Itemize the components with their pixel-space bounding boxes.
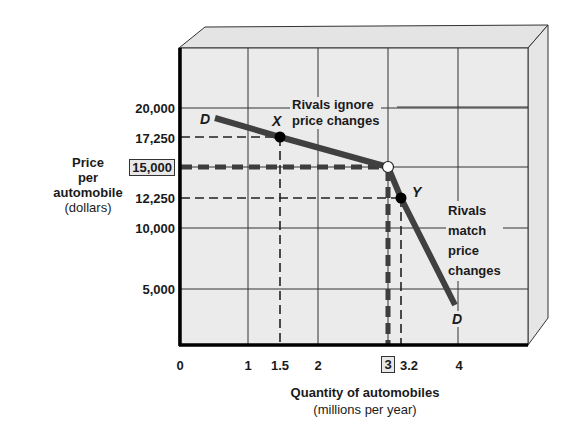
point-x-marker bbox=[275, 132, 286, 143]
y-tick-20000: 20,000 bbox=[105, 101, 175, 116]
y-title-line-2: per bbox=[48, 170, 128, 185]
annotation-match-line-2: match bbox=[448, 221, 501, 241]
annotation-match-line-3: price bbox=[448, 241, 501, 261]
x-axis-title: Quantity of automobiles (millions per ye… bbox=[250, 384, 480, 418]
y-axis-title: Price per automobile (dollars) bbox=[48, 155, 128, 215]
demand-label-start: D bbox=[200, 111, 210, 127]
x-tick-3-2: 3.2 bbox=[394, 358, 424, 373]
x-tick-1-5: 1.5 bbox=[265, 358, 295, 373]
y-title-line-1: Price bbox=[48, 155, 128, 170]
y-tick-15000-label: 15,000 bbox=[129, 159, 175, 176]
y-title-unit: (dollars) bbox=[65, 200, 112, 215]
annotation-ignore-line-2: price changes bbox=[292, 113, 379, 129]
y-title-line-3: automobile bbox=[48, 185, 128, 200]
x-title-main: Quantity of automobiles bbox=[250, 384, 480, 401]
x-tick-3-label: 3 bbox=[381, 356, 394, 373]
y-tick-5000: 5,000 bbox=[105, 282, 175, 297]
box-top bbox=[179, 25, 548, 48]
annotation-ignore-line-1: Rivals ignore bbox=[292, 97, 379, 113]
annotation-match-line-4: changes bbox=[448, 261, 501, 281]
point-x-label: X bbox=[272, 113, 281, 129]
point-y-marker bbox=[396, 193, 407, 204]
x-tick-0: 0 bbox=[165, 358, 195, 373]
box-side bbox=[528, 25, 548, 345]
annotation-rivals-match: Rivals match price changes bbox=[446, 201, 503, 281]
x-tick-2: 2 bbox=[303, 358, 333, 373]
annotation-match-line-1: Rivals bbox=[448, 201, 501, 221]
kink-point-marker bbox=[383, 162, 394, 173]
y-tick-17250: 17,250 bbox=[105, 131, 175, 146]
annotation-rivals-ignore: Rivals ignore price changes bbox=[290, 97, 381, 129]
x-tick-1: 1 bbox=[233, 358, 263, 373]
demand-label-end: D bbox=[451, 311, 463, 327]
y-tick-10000: 10,000 bbox=[105, 221, 175, 236]
plot-area bbox=[179, 48, 528, 345]
x-tick-4: 4 bbox=[444, 358, 474, 373]
point-y-label: Y bbox=[412, 184, 421, 200]
x-title-unit: (millions per year) bbox=[313, 402, 416, 417]
